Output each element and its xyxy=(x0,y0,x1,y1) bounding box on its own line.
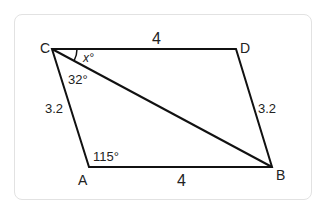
angle-label-115: 115° xyxy=(93,149,119,164)
side-label-cd: 4 xyxy=(152,30,161,47)
angle-label-32: 32° xyxy=(68,72,88,87)
angle-label-x: x° xyxy=(82,51,94,65)
parallelogram-diagram: C D A B 4 4 3.2 3.2 x° 32° 115° xyxy=(0,0,325,206)
diagonal-cb xyxy=(52,49,272,167)
angle-arc-x xyxy=(74,49,77,61)
side-label-db: 3.2 xyxy=(258,101,276,116)
side-label-ab: 4 xyxy=(177,172,186,189)
vertex-label-d: D xyxy=(240,40,250,56)
side-label-ca: 3.2 xyxy=(45,101,63,116)
vertex-label-c: C xyxy=(40,40,50,56)
vertex-label-b: B xyxy=(276,167,285,183)
vertex-label-a: A xyxy=(78,172,88,188)
